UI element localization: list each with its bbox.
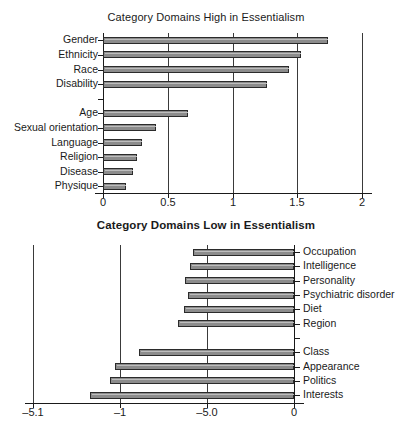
bar-highlight [105,156,137,157]
bar-politics [110,377,294,384]
x-axis-line [25,403,304,404]
bar-region [178,320,294,327]
bar-highlight [187,279,294,280]
bar-personality [185,277,294,284]
bar-physique [103,183,126,190]
y-tick-0 [295,252,300,253]
bar-race [103,66,289,73]
y-tick-1 [295,266,300,267]
y-tick-5 [295,324,300,325]
y-tick-7 [295,352,300,353]
category-label-diet: Diet [303,303,322,313]
category-label-race: Race [0,64,98,74]
chart-panel-low-essentialism: Category Domains Low in Essentialism –5.… [0,215,412,438]
category-label-disability: Disability [0,78,98,88]
bar-gender [103,37,328,44]
bar-class [139,349,294,356]
y-tick-3 [295,295,300,296]
bar-interests [90,392,294,399]
bar-ethnicity [103,51,301,58]
bar-appearance [115,363,294,370]
gridline-4 [362,33,363,193]
category-label-politics: Politics [303,375,336,385]
category-label-class: Class [303,346,329,356]
y-tick-10 [295,395,300,396]
gridline-0 [33,245,34,403]
y-tick-8 [295,367,300,368]
y-tick-2 [295,281,300,282]
category-label-age: Age [0,107,98,117]
bar-diet [184,306,294,313]
bar-highlight [105,39,328,40]
category-label-sexual-orientation: Sexual orientation [0,122,98,132]
bar-religion [103,154,137,161]
plot-area-low: –5.1–1–5.00OccupationIntelligencePersona… [0,215,412,438]
figure-container: Category Domains High in Essentialism 00… [0,0,412,438]
bar-highlight [105,112,188,113]
x-tick-label-1: –1 [90,406,150,418]
category-label-personality: Personality [303,275,355,285]
bar-highlight [190,294,294,295]
bar-highlight [105,68,289,69]
category-label-appearance: Appearance [303,361,360,371]
category-label-occupation: Occupation [303,246,356,256]
bar-highlight [105,185,126,186]
bar-sexual-orientation [103,124,156,131]
bar-highlight [105,83,267,84]
bar-highlight [195,251,294,252]
bar-highlight [192,265,294,266]
y-tick-4 [98,99,103,100]
bar-highlight [186,308,294,309]
x-tick-label-4: 2 [332,196,392,208]
category-label-psychiatric-disorder: Psychiatric disorder [303,289,395,299]
x-tick-label-0: –5.1 [3,406,63,418]
bar-occupation [193,249,294,256]
bar-highlight [92,394,294,395]
bar-disease [103,168,133,175]
category-label-gender: Gender [0,34,98,44]
y-tick-4 [295,309,300,310]
category-label-region: Region [303,318,336,328]
x-tick-label-2: 1 [203,196,263,208]
x-tick-label-3: 0 [264,406,324,418]
bar-highlight [141,351,294,352]
x-tick-label-3: 1.5 [267,196,327,208]
y-tick-6 [295,338,300,339]
bar-intelligence [190,263,294,270]
x-tick-label-2: –5.0 [177,406,237,418]
bar-highlight [117,365,294,366]
bar-highlight [112,379,294,380]
x-tick-label-0: 0 [73,196,133,208]
bar-disability [103,81,267,88]
x-tick-label-1: 0.5 [138,196,198,208]
bar-highlight [105,126,156,127]
bar-highlight [105,141,142,142]
category-label-interests: Interests [303,389,343,399]
category-label-disease: Disease [0,166,98,176]
bar-language [103,139,142,146]
plot-area-high: 00.511.52GenderEthnicityRaceDisabilityAg… [0,0,412,215]
category-label-religion: Religion [0,151,98,161]
bar-highlight [105,170,133,171]
bar-psychiatric-disorder [188,292,294,299]
category-label-language: Language [0,137,98,147]
bar-highlight [180,322,294,323]
bar-age [103,110,188,117]
category-label-ethnicity: Ethnicity [0,49,98,59]
bar-highlight [105,53,301,54]
category-label-intelligence: Intelligence [303,260,356,270]
category-label-physique: Physique [0,180,98,190]
y-tick-9 [295,381,300,382]
chart-panel-high-essentialism: Category Domains High in Essentialism 00… [0,0,412,215]
